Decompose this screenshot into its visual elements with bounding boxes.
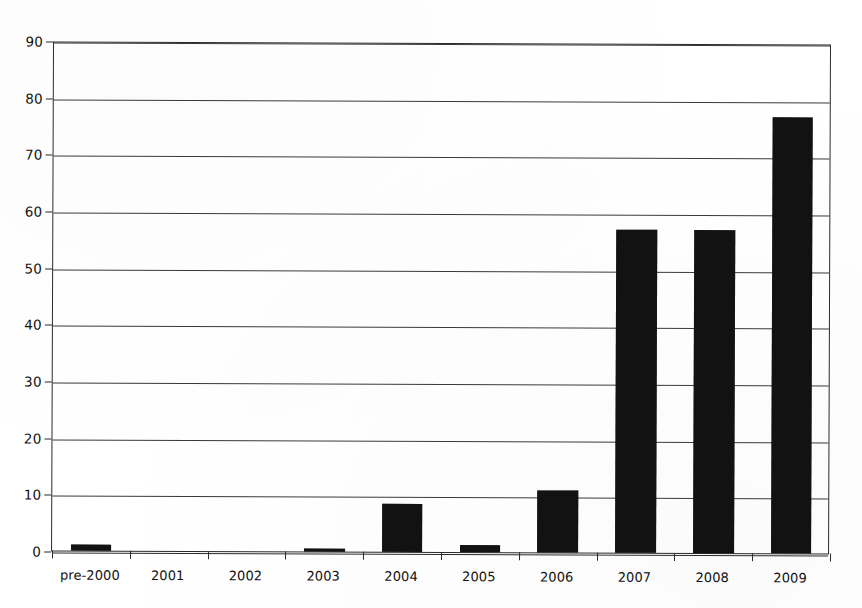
x-tick-label-2002: 2002 (207, 568, 285, 583)
y-tick-label-70: 70 (3, 147, 43, 163)
x-tick-label-2009: 2009 (751, 570, 829, 585)
scan-skew-layer: 0102030405060708090 pre-2000200120022003… (0, 0, 862, 608)
x-axis-label-group: pre-200020012002200320042005200620072008… (1, 0, 862, 2)
bar-2006 (538, 490, 579, 552)
y-tick-mark-90 (46, 42, 53, 43)
x-tick-mark-1 (130, 551, 131, 559)
x-tick-mark-end (830, 554, 831, 562)
bar-2004 (382, 504, 423, 552)
y-tick-mark-60 (45, 212, 52, 213)
y-tick-label-20: 20 (1, 430, 41, 446)
bar-chart-figure: 0102030405060708090 pre-2000200120022003… (0, 0, 862, 608)
x-tick-label-pre-2000: pre-2000 (51, 568, 129, 583)
x-tick-mark-6 (519, 552, 520, 560)
x-tick-label-2007: 2007 (596, 570, 674, 585)
y-tick-mark-0 (44, 552, 51, 553)
x-tick-mark-4 (363, 552, 364, 560)
y-tick-mark-80 (46, 98, 53, 99)
y-tick-label-30: 30 (2, 373, 42, 389)
x-tick-mark-0 (52, 551, 53, 559)
y-tick-label-10: 10 (1, 487, 41, 503)
x-tick-mark-7 (597, 553, 598, 561)
x-tick-mark-8 (674, 553, 675, 561)
x-tick-label-2003: 2003 (284, 568, 362, 583)
y-axis-tick-group: 0102030405060708090 (1, 0, 862, 2)
bar-2005 (460, 545, 500, 552)
x-tick-label-2001: 2001 (129, 568, 207, 583)
y-tick-mark-10 (44, 495, 51, 496)
x-tick-mark-2 (208, 551, 209, 559)
y-tick-label-50: 50 (2, 260, 42, 276)
x-tick-label-2005: 2005 (440, 569, 518, 584)
gridline-80 (54, 99, 830, 103)
gridline-70 (54, 156, 830, 160)
x-tick-label-2006: 2006 (518, 569, 596, 584)
x-tick-label-2008: 2008 (673, 570, 751, 585)
plot-wrapper: 0102030405060708090 pre-2000200120022003… (0, 0, 862, 608)
bar-2009 (771, 117, 813, 553)
gridline-60 (53, 213, 829, 217)
y-tick-label-80: 80 (3, 90, 43, 106)
y-tick-mark-40 (45, 325, 52, 326)
y-tick-mark-70 (46, 155, 53, 156)
x-tick-mark-5 (441, 552, 442, 560)
bar-2003 (304, 549, 344, 552)
gridline-group (54, 43, 830, 46)
x-tick-mark-3 (285, 551, 286, 559)
y-tick-label-90: 90 (3, 33, 43, 49)
x-tick-label-2004: 2004 (362, 569, 440, 584)
y-tick-mark-20 (44, 438, 51, 439)
plot-area (51, 42, 831, 555)
bar-2008 (693, 230, 735, 553)
y-tick-label-60: 60 (2, 203, 42, 219)
y-tick-mark-50 (45, 268, 52, 269)
y-tick-mark-30 (45, 382, 52, 383)
y-tick-label-40: 40 (2, 317, 42, 333)
x-tick-mark-9 (752, 553, 753, 561)
bar-pre-2000 (71, 545, 111, 551)
gridline-90 (54, 43, 830, 47)
bar-2007 (615, 230, 657, 553)
y-tick-label-0: 0 (1, 543, 41, 559)
